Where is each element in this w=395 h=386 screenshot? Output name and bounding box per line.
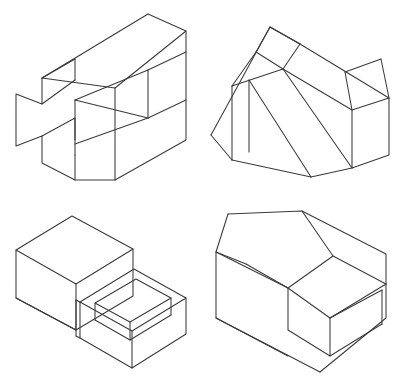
figure-bottom-right-geometry: [216, 211, 386, 372]
drawing-sheet: Isometric Pictorial Drawings Rectangular…: [0, 0, 395, 386]
figure-bottom-right: [0, 0, 395, 386]
